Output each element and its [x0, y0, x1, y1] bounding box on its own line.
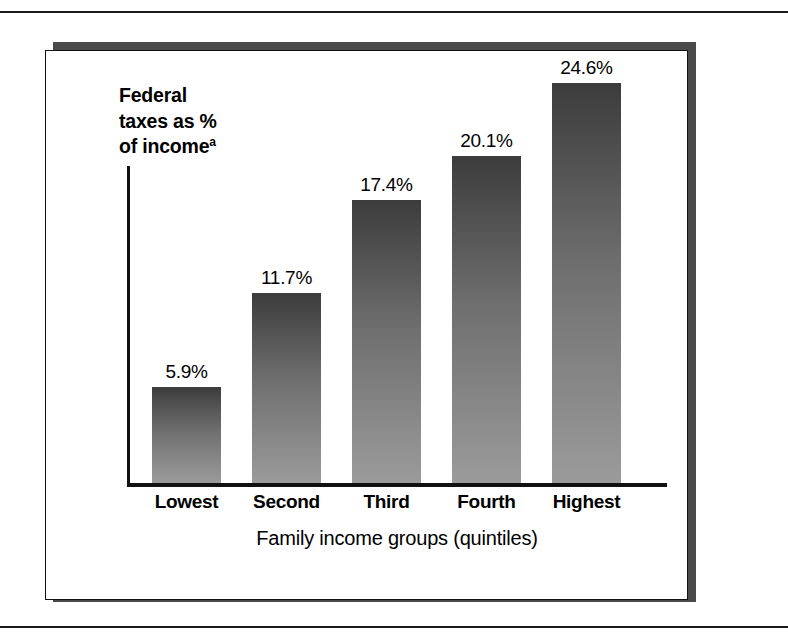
x-tick-label-third: Third [330, 491, 443, 513]
bar-slot-second: 11.7% [252, 51, 321, 483]
chart-plot-area: Federal taxes as % of incomea 5.9% 11.7%… [46, 51, 689, 601]
page-top-rule [0, 11, 788, 13]
x-tick-label-lowest: Lowest [130, 491, 243, 513]
bar-value-label-second: 11.7% [230, 267, 343, 289]
bar-value-label-fourth: 20.1% [430, 130, 543, 152]
bar-slot-fourth: 20.1% [452, 51, 521, 483]
bar-series: 5.9% 11.7% 17.4% 20.1% 24.6% [46, 51, 689, 483]
page-bottom-rule [0, 626, 788, 628]
bar-value-label-third: 17.4% [330, 174, 443, 196]
x-tick-label-fourth: Fourth [430, 491, 543, 513]
bar-slot-lowest: 5.9% [152, 51, 221, 483]
bar-value-label-lowest: 5.9% [130, 361, 243, 383]
x-axis-title: Family income groups (quintiles) [127, 527, 667, 550]
bar-fourth [452, 156, 521, 483]
bar-third [352, 200, 421, 483]
x-tick-label-highest: Highest [530, 491, 643, 513]
bar-highest [552, 83, 621, 483]
x-axis-line [127, 483, 667, 487]
bar-second [252, 293, 321, 483]
x-axis-category-labels: Lowest Second Third Fourth Highest [46, 491, 689, 521]
x-tick-label-second: Second [230, 491, 343, 513]
bar-lowest [152, 387, 221, 483]
bar-slot-highest: 24.6% [552, 51, 621, 483]
figure-frame: Federal taxes as % of incomea 5.9% 11.7%… [45, 50, 688, 600]
bar-slot-third: 17.4% [352, 51, 421, 483]
page-canvas: Federal taxes as % of incomea 5.9% 11.7%… [0, 0, 788, 638]
bar-value-label-highest: 24.6% [530, 57, 643, 79]
